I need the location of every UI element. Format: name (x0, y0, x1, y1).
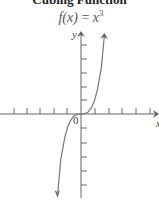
curve-arrow-down-icon (55, 190, 61, 198)
cubic-plot: y x 0 (0, 0, 159, 200)
x-axis-label: x (155, 117, 159, 129)
origin-label: 0 (73, 114, 79, 126)
y-ticks (81, 45, 87, 185)
x-ticks (14, 108, 150, 114)
y-axis-label: y (71, 28, 77, 40)
